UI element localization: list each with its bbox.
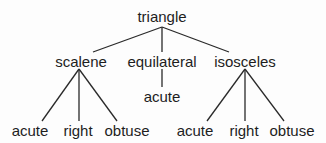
node-equilateral-acute: acute [144,89,181,104]
node-isosceles-acute: acute [177,123,214,138]
triangle-classification-tree: triangle scalene equilateral isosceles a… [0,0,326,143]
node-isosceles-obtuse: obtuse [269,123,314,138]
node-scalene-obtuse: obtuse [104,123,149,138]
node-isosceles-right: right [229,123,258,138]
node-triangle: triangle [137,9,186,24]
node-isosceles: isosceles [214,54,276,69]
node-scalene-acute: acute [12,123,49,138]
edge-isosceles-acute [207,69,245,121]
edge-isosceles-obtuse [245,69,284,121]
edge-scalene-obtuse [79,69,117,121]
node-scalene: scalene [55,54,107,69]
edge-triangle-scalene [93,27,162,52]
edge-scalene-acute [42,69,79,121]
edge-triangle-isosceles [162,27,229,52]
node-scalene-right: right [63,123,92,138]
node-equilateral: equilateral [127,54,196,69]
